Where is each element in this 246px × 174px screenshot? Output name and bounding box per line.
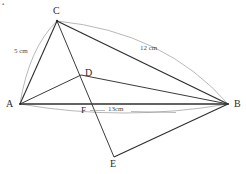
- segment-AD: [20, 75, 81, 104]
- measure-label-5cm: 5 cm: [14, 48, 28, 55]
- vertex-label-A: A: [6, 99, 13, 109]
- vertex-label-C: C: [53, 6, 60, 16]
- segment-CB: [57, 21, 228, 104]
- segment-AC: [20, 21, 57, 104]
- geometry-figure: ▪ A B C D F E 5 cm 12 cm 13cm: [0, 0, 246, 174]
- vertex-label-D: D: [85, 68, 92, 78]
- figure-canvas: [0, 0, 246, 174]
- segment-CE: [57, 21, 114, 157]
- arc-AB-13cm: [20, 104, 228, 113]
- vertex-label-F: F: [81, 106, 86, 115]
- vertex-label-B: B: [234, 99, 241, 109]
- measure-label-13cm: 13cm: [108, 106, 124, 113]
- vertex-dot-C: [56, 20, 58, 22]
- vertex-dot-B: [227, 103, 229, 105]
- vertex-dot-A: [19, 103, 21, 105]
- segment-EB: [114, 104, 228, 157]
- vertex-label-E: E: [110, 159, 116, 169]
- measure-label-12cm: 12 cm: [140, 45, 157, 52]
- segment-DB: [81, 75, 228, 104]
